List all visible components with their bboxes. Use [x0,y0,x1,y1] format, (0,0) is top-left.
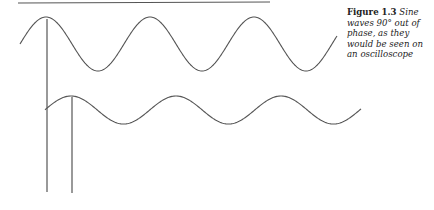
phase-marker-lines [47,19,72,193]
lower-sine-wave [45,96,361,124]
figure-caption: Figure 1.3 Sine waves 90° out of phase, … [347,7,434,60]
top-rule [18,2,270,3]
caption-label: Figure 1.3 [347,7,397,17]
upper-sine-wave [20,17,337,71]
